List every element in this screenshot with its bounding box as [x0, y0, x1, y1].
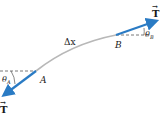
theta-a-subscript: A	[6, 79, 11, 85]
point-a-label: A	[39, 75, 47, 85]
delta-x-label: Δx	[64, 37, 76, 47]
tension-vector-right	[116, 21, 156, 35]
vector-arrow-right: →	[152, 2, 158, 11]
string-segment	[36, 35, 116, 71]
theta-b-subscript: B	[149, 34, 154, 40]
vector-arrow-left: →	[0, 98, 6, 107]
point-b-label: B	[114, 40, 122, 50]
string-tension-diagram: T → T → Δx A B θ A θ B	[0, 0, 166, 120]
angle-arc-a	[11, 71, 15, 84]
